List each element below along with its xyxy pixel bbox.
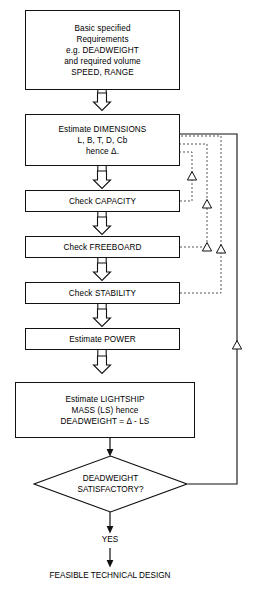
estimate-lightship-box[interactable]: Estimate LIGHTSHIP MASS (LS) hence DEADW…: [15, 382, 195, 438]
requirements-line-2: Requirements: [76, 34, 128, 45]
decision-diamond-shape: [33, 455, 188, 513]
yes-label: YES: [85, 534, 135, 545]
estimate-power-label: Estimate POWER: [69, 334, 135, 345]
estimate-lightship-line-2: MASS (LS) hence: [71, 405, 138, 416]
feasible-technical-design-label: FEASIBLE TECHNICAL DESIGN: [10, 570, 210, 581]
requirements-line-3: e.g. DEADWEIGHT: [66, 45, 139, 56]
requirements-box[interactable]: Basic specified Requirements e.g. DEADWE…: [25, 10, 180, 90]
estimate-lightship-line-3: DEADWEIGHT = Δ - LS: [61, 416, 150, 427]
requirements-line-4: and required volume: [64, 56, 141, 67]
estimate-power-box[interactable]: Estimate POWER: [25, 328, 180, 350]
check-stability-box[interactable]: Check STABILITY: [25, 282, 180, 304]
capacity-feedback-arrow: [187, 172, 196, 181]
deadweight-feedback-arrow: [232, 341, 241, 350]
check-capacity-box[interactable]: Check CAPACITY: [25, 190, 180, 212]
freeboard-feedback-arrow-mid: [202, 200, 211, 209]
flowchart-canvas: Basic specified Requirements e.g. DEADWE…: [0, 0, 260, 592]
estimate-dimensions-line-2: L, B, T, D, Cb: [78, 135, 128, 146]
deadweight-satisfactory-decision[interactable]: DEADWEIGHT SATISFACTORY?: [33, 455, 188, 513]
estimate-dimensions-box[interactable]: Estimate DIMENSIONS L, B, T, D, Cb hence…: [25, 114, 180, 166]
stability-feedback-arrow: [216, 245, 225, 254]
check-stability-label: Check STABILITY: [69, 288, 136, 299]
stability-feedback-loop: [180, 136, 221, 293]
requirements-line-1: Basic specified: [74, 23, 130, 34]
check-capacity-label: Check CAPACITY: [69, 196, 136, 207]
estimate-dimensions-line-3: hence Δ.: [86, 146, 119, 157]
check-freeboard-label: Check FREEBOARD: [64, 242, 142, 253]
freeboard-feedback-arrow: [202, 243, 211, 252]
requirements-line-5: SPEED, RANGE: [71, 67, 134, 78]
estimate-lightship-line-1: Estimate LIGHTSHIP: [65, 394, 144, 405]
estimate-dimensions-line-1: Estimate DIMENSIONS: [59, 124, 147, 135]
freeboard-feedback-loop: [180, 144, 207, 247]
check-freeboard-box[interactable]: Check FREEBOARD: [25, 236, 180, 258]
